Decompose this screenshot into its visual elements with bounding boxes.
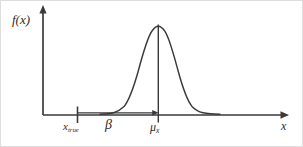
bias-beta-label: β [105, 118, 112, 132]
x-true-subscript: true [68, 126, 79, 133]
y-axis-label: f(x) [12, 13, 30, 26]
mu-subscript: x [156, 126, 159, 135]
mean-mu-label: μx [150, 121, 159, 135]
x-true-label: xtrue [63, 121, 79, 134]
x-axis-label: x [281, 120, 286, 132]
figure-container: f(x) x xtrue β μx [0, 0, 303, 147]
